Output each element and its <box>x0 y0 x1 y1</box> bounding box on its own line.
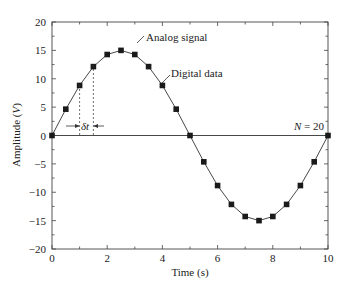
digital-data-marker <box>118 48 124 54</box>
analog-signal-annotation: Analog signal <box>137 31 207 43</box>
x-tick-label: 6 <box>215 252 221 264</box>
digital-data-marker <box>132 52 138 58</box>
x-tick-label: 4 <box>160 252 166 264</box>
y-tick-label: 10 <box>35 73 47 85</box>
digital-data-marker <box>229 202 235 208</box>
svg-text:Analog signal: Analog signal <box>146 31 207 43</box>
y-tick-label: 0 <box>41 130 47 142</box>
digital-data-annotation: Digital data <box>162 67 223 83</box>
y-tick-label: 5 <box>41 101 47 113</box>
chart: 20151050−5−10−15−20 0246810 Time (s) Amp… <box>0 0 349 293</box>
digital-data-marker <box>270 214 276 220</box>
y-tick-label: −10 <box>29 186 47 198</box>
x-tick-label: 2 <box>104 252 110 264</box>
n-annotation: N = 20 <box>293 120 325 132</box>
x-tick-label: 8 <box>270 252 276 264</box>
digital-data-marker <box>146 64 152 70</box>
digital-data-marker <box>104 52 110 58</box>
y-tick-label: −20 <box>29 243 47 255</box>
y-tick-label: −5 <box>34 158 46 170</box>
digital-data-marker <box>201 159 207 165</box>
digital-data-marker <box>256 218 262 224</box>
x-tick-labels: 0246810 <box>49 252 334 264</box>
digital-data-marker <box>311 159 317 165</box>
y-tick-label: 20 <box>35 16 47 28</box>
delta-t-annotation: δt <box>66 65 104 135</box>
x-axis-label: Time (s) <box>171 266 209 279</box>
digital-data-marker <box>173 106 179 112</box>
digital-data-marker <box>325 133 331 139</box>
y-tick-label: −15 <box>29 215 47 227</box>
svg-text:δt: δt <box>81 120 90 132</box>
x-tick-label: 10 <box>323 252 335 264</box>
digital-data-marker <box>242 214 248 220</box>
x-tick-label: 0 <box>49 252 55 264</box>
digital-data-marker <box>298 183 304 189</box>
digital-data-marker <box>187 133 193 139</box>
y-tick-labels: 20151050−5−10−15−20 <box>29 16 47 255</box>
y-tick-label: 15 <box>35 44 47 56</box>
digital-data-marker <box>284 202 290 208</box>
digital-data-marker <box>63 106 69 112</box>
y-axis-label: Amplitude (V) <box>10 103 23 167</box>
digital-data-marker <box>160 83 166 89</box>
digital-data-marker <box>49 133 55 139</box>
svg-text:Digital data: Digital data <box>171 67 223 79</box>
digital-data-marker <box>215 183 221 189</box>
